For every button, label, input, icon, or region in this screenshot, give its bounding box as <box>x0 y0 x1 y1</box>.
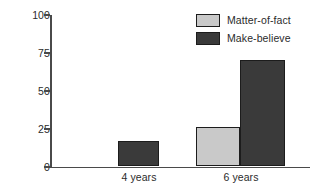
bar-6years-matter-of-fact <box>196 127 240 166</box>
y-tick-mark-0 <box>44 166 50 167</box>
legend-item-make-believe: Make-believe <box>196 32 291 45</box>
legend-swatch-make-believe <box>196 32 220 45</box>
y-tick-mark-50 <box>44 90 50 91</box>
y-tick-mark-100 <box>44 14 50 15</box>
x-axis-line <box>50 167 310 169</box>
legend-label-make-believe: Make-believe <box>227 33 291 44</box>
y-tick-mark-25 <box>44 128 50 129</box>
x-axis-label-6-years: 6 years <box>200 172 282 184</box>
y-axis-line <box>50 15 52 168</box>
bar-4years-make-believe <box>118 141 159 167</box>
bar-chart: 100 75 50 25 0 4 years 6 years Matter-of… <box>0 0 319 194</box>
x-axis-label-4-years: 4 years <box>98 172 180 184</box>
bar-6years-make-believe <box>240 60 285 166</box>
legend: Matter-of-fact Make-believe <box>196 14 291 50</box>
legend-item-matter-of-fact: Matter-of-fact <box>196 14 291 27</box>
legend-swatch-matter-of-fact <box>196 14 220 27</box>
legend-label-matter-of-fact: Matter-of-fact <box>227 15 291 26</box>
y-tick-mark-75 <box>44 52 50 53</box>
